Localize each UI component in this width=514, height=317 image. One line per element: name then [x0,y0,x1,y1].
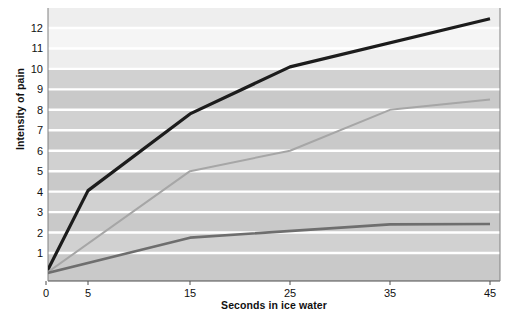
line-chart [0,0,514,317]
